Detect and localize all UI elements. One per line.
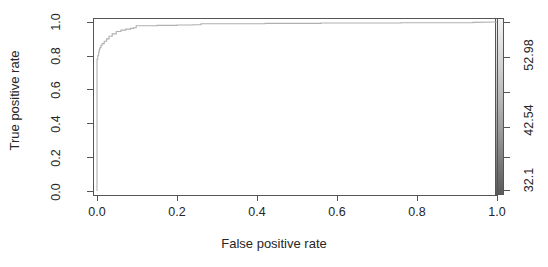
plot-axes-and-curve [0, 0, 548, 267]
roc-plot-figure: True positive rate False positive rate 0… [0, 0, 548, 267]
x-axis-ticks [97, 195, 497, 201]
roc-curve [97, 22, 497, 191]
plot-frame [93, 18, 497, 195]
y-axis-ticks [87, 22, 93, 191]
